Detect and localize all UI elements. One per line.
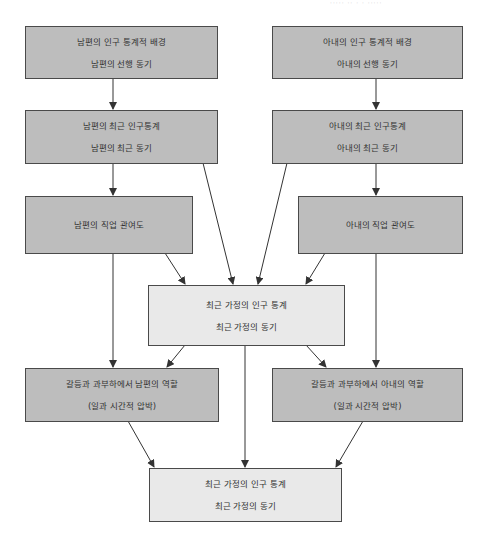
box-text-line1: 최근 가정의 인구 통계 — [205, 479, 285, 489]
arrow-connectors — [0, 0, 481, 546]
box-text-line1: 갈등과 과부하에서 아내의 역할 — [311, 379, 423, 389]
arrow-wife-conflict-to-bottom — [336, 421, 363, 467]
box-household-center: 최근 가정의 인구 통계 최근 가정의 동기 — [148, 285, 345, 346]
arrow-husband-conflict-to-bottom — [128, 421, 154, 467]
arrow-wife-recent-to-household — [258, 163, 287, 284]
box-text-line2: 남편의 선행 동기 — [91, 59, 152, 69]
box-text-line1: 남편의 직업 관여도 — [74, 220, 143, 230]
box-text-line1: 아내의 인구 통계적 배경 — [323, 37, 411, 47]
box-text-line1: 갈등과 과부하에서 남편의 역할 — [66, 379, 178, 389]
box-text-line1: 최근 가정의 인구 통계 — [206, 300, 286, 310]
box-text-line1: 남편의 인구 통계적 배경 — [77, 37, 165, 47]
box-household-bottom: 최근 가정의 인구 통계 최근 가정의 동기 — [149, 468, 342, 522]
box-text-line2: 최근 가정의 동기 — [215, 501, 276, 511]
arrow-husband-recent-to-household — [203, 163, 233, 284]
box-text-line2: 남편의 최근 동기 — [91, 143, 152, 153]
arrow-wife-job-to-household — [306, 253, 325, 284]
box-text-line2: (일과 시간적 압박) — [88, 401, 156, 411]
box-text-line2: 아내의 최근 동기 — [337, 143, 398, 153]
box-husband-conflict: 갈등과 과부하에서 남편의 역할 (일과 시간적 압박) — [25, 368, 219, 422]
arrow-husband-job-to-household — [165, 253, 185, 284]
box-text-line1: 남편의 최근 인구통계 — [83, 121, 160, 131]
box-text-line2: (일과 시간적 압박) — [333, 401, 401, 411]
box-husband-job: 남편의 직업 관여도 — [25, 196, 193, 254]
box-text-line1: 아내의 최근 인구통계 — [329, 121, 406, 131]
arrow-household-to-wife-conflict — [306, 345, 326, 367]
box-husband-recent: 남편의 최근 인구통계 남편의 최근 동기 — [25, 110, 218, 164]
box-text-line2: 아내의 선행 동기 — [337, 59, 398, 69]
box-wife-conflict: 갈등과 과부하에서 아내의 역할 (일과 시간적 압박) — [272, 368, 463, 422]
box-wife-recent: 아내의 최근 인구통계 아내의 최근 동기 — [272, 110, 463, 164]
box-wife-job: 아내의 직업 관여도 — [298, 196, 463, 254]
box-text-line1: 아내의 직업 관여도 — [346, 220, 415, 230]
box-husband-background: 남편의 인구 통계적 배경 남편의 선행 동기 — [25, 26, 218, 79]
arrow-household-to-husband-conflict — [167, 345, 185, 367]
box-wife-background: 아내의 인구 통계적 배경 아내의 선행 동기 — [272, 26, 463, 79]
box-text-line2: 최근 가정의 동기 — [216, 322, 277, 332]
